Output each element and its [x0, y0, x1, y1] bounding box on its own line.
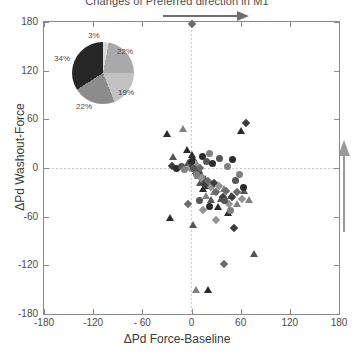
data-point-circle	[193, 171, 200, 178]
data-point-triangle	[163, 130, 171, 137]
x-tick-label: -120	[73, 317, 113, 328]
pie-slice-label-4: 34%	[54, 54, 70, 63]
data-point-triangle	[250, 250, 258, 257]
data-point-circle	[209, 160, 216, 167]
data-point-triangle	[169, 153, 177, 160]
pie-slice-label-1: 22%	[117, 47, 133, 56]
data-point-triangle	[189, 221, 197, 228]
x-tick-label: 60	[221, 317, 261, 328]
y-tick-label: -120	[2, 259, 38, 270]
horizontal-arrow-annotation	[163, 11, 249, 21]
x-tick-label: 120	[270, 317, 310, 328]
x-axis-title: ΔPd Force-Baseline	[0, 332, 354, 346]
y-axis-title: ΔPd Washout-Force	[13, 57, 27, 257]
pie-slice-label-0: 3%	[88, 31, 100, 40]
data-point-triangle	[166, 214, 174, 221]
data-point-triangle	[204, 286, 212, 293]
data-point-triangle	[192, 286, 200, 293]
x-tick-label: -180	[24, 317, 64, 328]
inset-pie-chart: 3% 22% 19% 22% 34%	[62, 40, 140, 108]
x-tick-label: - 60	[122, 317, 162, 328]
data-point-circle	[216, 155, 223, 162]
figure-canvas: Changes of Preferred direction in M1 180…	[0, 0, 354, 353]
data-point-circle	[188, 158, 195, 165]
data-point-circle	[206, 150, 213, 157]
data-point-circle	[224, 163, 231, 170]
y-tick-label: 180	[2, 16, 38, 27]
data-point-triangle	[237, 127, 245, 134]
data-point-triangle	[214, 203, 222, 210]
pie-slice-label-2: 19%	[118, 88, 134, 97]
data-point-triangle	[179, 125, 187, 132]
data-point-circle	[227, 207, 234, 214]
data-point-circle	[221, 197, 228, 204]
data-point-triangle	[245, 196, 253, 203]
x-tick-label: 0	[172, 317, 212, 328]
chart-title: Changes of Preferred direction in M1	[0, 0, 354, 7]
x-tick-label: 180	[319, 317, 354, 328]
data-point-circle	[236, 171, 243, 178]
pie-slice-label-3: 22%	[76, 102, 92, 111]
